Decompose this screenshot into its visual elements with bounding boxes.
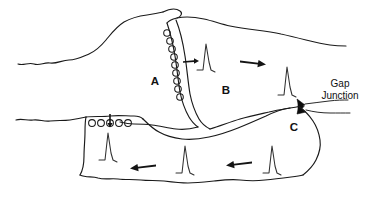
- spike-cell-lower-mid: [176, 146, 194, 175]
- spike-cell-b-right: [278, 67, 296, 97]
- region-label-c: C: [290, 121, 298, 133]
- vesicle: [171, 54, 178, 61]
- arrow-lower-left-propagation: [130, 164, 156, 171]
- gap-junction-label-line1: Gap: [331, 78, 350, 89]
- vesicle: [98, 120, 105, 127]
- vesicle: [175, 86, 182, 93]
- gap-junction-label-line2: Junction: [321, 90, 358, 101]
- right-outer-membrane-stub: [306, 110, 350, 113]
- lower-cell-left-shelf: [80, 117, 86, 175]
- spike-cell-b-left: [197, 44, 215, 72]
- synapse-gap-junction-diagram: A B C Gap Junction: [0, 0, 369, 214]
- lower-cell-bottom-membrane: [80, 175, 303, 183]
- vesicle: [173, 70, 180, 77]
- cleft-postsynaptic-face: [176, 20, 210, 129]
- arrow-cell-b-propagation: [240, 60, 266, 67]
- cell-c-right-membrane: [299, 107, 320, 176]
- cell-a-membrane-group: [18, 9, 181, 64]
- cell-a-upper-membrane: [18, 12, 163, 65]
- vesicle: [116, 120, 123, 127]
- region-label-a: A: [151, 75, 159, 87]
- region-label-b: B: [222, 84, 230, 96]
- cell-a-apex-fold: [163, 9, 181, 23]
- vesicle: [164, 30, 171, 37]
- cell-b-lower-membrane: [210, 107, 299, 130]
- synaptic-vesicles-group: [164, 30, 184, 101]
- cell-b-upper-membrane: [177, 17, 346, 46]
- diagram-canvas: A B C Gap Junction: [0, 0, 369, 214]
- lower-left-outer-membrane: [16, 117, 86, 121]
- spike-cell-lower-left: [99, 133, 117, 162]
- vesicle: [174, 78, 181, 85]
- vesicle: [89, 120, 96, 127]
- lower-cell-top-membrane: [86, 116, 143, 119]
- arrow-lower-right-propagation: [226, 161, 252, 168]
- vesicle: [172, 62, 179, 69]
- spike-cell-c: [263, 146, 281, 175]
